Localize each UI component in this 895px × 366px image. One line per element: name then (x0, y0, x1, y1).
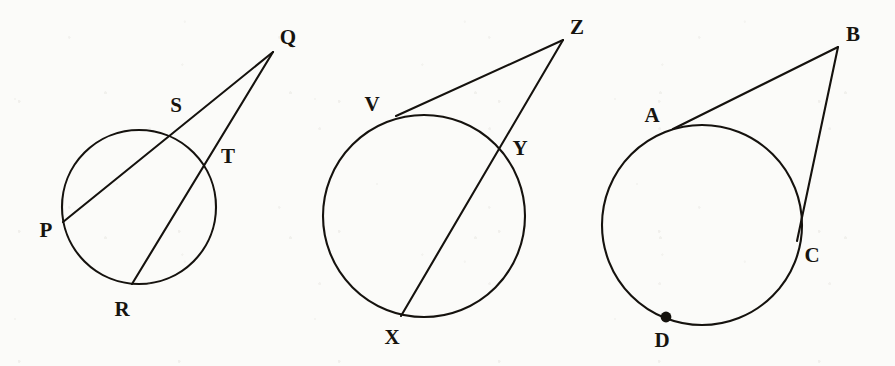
figure-pqrst-label-q: Q (280, 25, 296, 49)
marked-point-D (661, 312, 672, 323)
tangent-B-A (673, 47, 838, 129)
figure-abcd-label-c: C (804, 243, 819, 267)
tangent-Z-V (396, 40, 563, 116)
secant-secant-from-external-point: PSTRQ (40, 25, 297, 321)
geometry-figure-canvas: PSTRQVYXZACDB (0, 0, 895, 366)
figure-vxyz-label-x: X (384, 325, 399, 349)
figure-vxyz-label-z: Z (570, 15, 584, 39)
secant-Z-Y-X (401, 40, 563, 316)
figure-pqrst-label-t: T (221, 144, 235, 168)
figure-abcd-circle (602, 125, 802, 325)
secant-Q-S-P (63, 52, 273, 222)
figure-pqrst-label-s: S (170, 93, 182, 117)
figures-group: PSTRQVYXZACDB (40, 15, 860, 352)
figure-abcd-label-d: D (654, 328, 669, 352)
figure-abcd-label-b: B (846, 22, 860, 46)
figure-pqrst-label-p: P (40, 218, 53, 242)
diagram-page: PSTRQVYXZACDB (0, 0, 895, 366)
secant-B-C (797, 47, 838, 241)
figure-pqrst-circle (62, 130, 216, 284)
figure-vxyz-label-v: V (364, 92, 379, 116)
figure-vxyz-circle (323, 115, 525, 317)
figure-abcd-label-a: A (644, 103, 660, 127)
tangent-secant-from-external-point: VYXZ (323, 15, 584, 349)
figure-pqrst-label-r: R (114, 297, 130, 321)
figure-vxyz-label-y: Y (512, 136, 527, 160)
tangent-secant-with-marked-point: ACDB (602, 22, 860, 352)
